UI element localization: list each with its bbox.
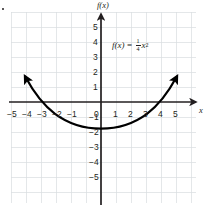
y-axis-label: f(x) [97,1,109,10]
x-tick-label-1: 1 [113,110,118,119]
x-tick-label-neg1: −1 [67,110,77,119]
fraction-denominator: 4 [136,46,141,53]
y-tick-label-neg2: −2 [89,128,99,137]
graph-figure: f(x) x −5 −4 −3 −2 −1 0 1 2 3 4 5 5 4 3 … [0,0,205,207]
x-tick-label-3: 3 [143,110,148,119]
y-tick-label-neg5: −5 [89,173,99,182]
y-tick-label-4: 4 [93,38,98,47]
x-tick-label-neg4: −4 [22,110,32,119]
x-tick-label-4: 4 [158,110,163,119]
y-tick-label-2: 2 [93,68,98,77]
x-tick-label-neg3: −3 [37,110,47,119]
equation-equals: = [127,41,132,50]
equation-fraction: 1 4 [136,38,141,52]
x-tick-label-neg5: −5 [7,110,17,119]
x-tick-label-5: 5 [173,110,178,119]
fraction-numerator: 1 [136,38,141,46]
y-tick-label-neg1: −1 [89,113,99,122]
x-tick-label-2: 2 [128,110,133,119]
x-tick-label-neg2: −2 [52,110,62,119]
equation-exponent: 2 [146,42,149,48]
y-tick-label-5: 5 [93,23,98,32]
equation-lhs: f(x) [112,41,125,50]
y-tick-label-neg3: −3 [89,143,99,152]
equation-annotation: f(x) = 1 4 x 2 [112,38,149,52]
y-tick-label-neg4: −4 [89,158,99,167]
y-tick-label-3: 3 [93,53,98,62]
coordinate-plane [0,0,205,207]
x-axis-label: x [199,106,203,115]
y-tick-label-1: 1 [93,83,98,92]
